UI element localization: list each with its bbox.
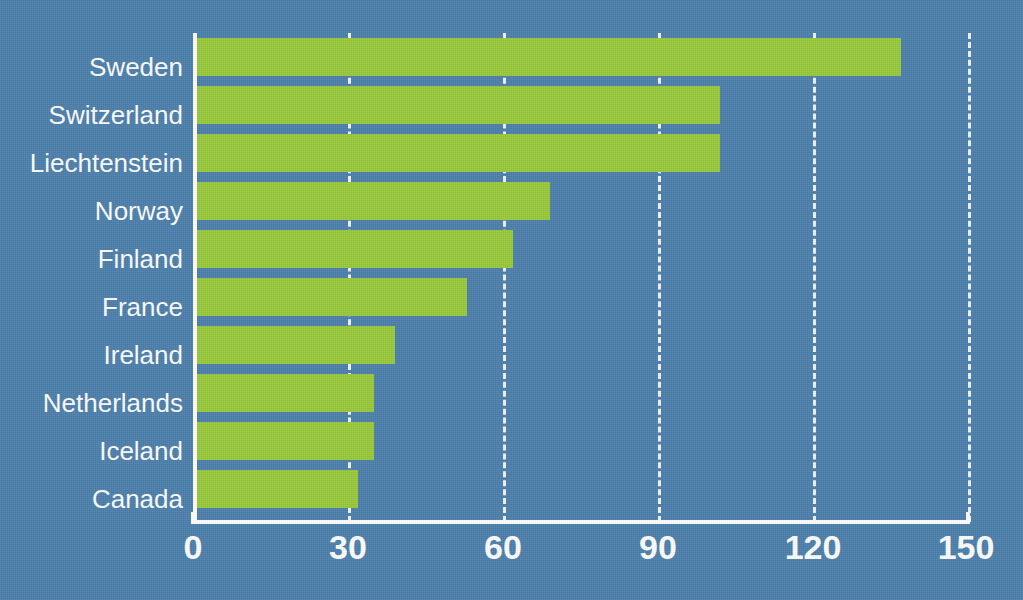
bar-sweden[interactable]	[193, 38, 901, 76]
category-label-sweden: Sweden	[0, 48, 183, 86]
category-label-netherlands: Netherlands	[0, 384, 183, 422]
category-label-text: Netherlands	[43, 388, 183, 418]
x-tick-label-60: 60	[484, 528, 522, 567]
horizontal-bar-chart: Sweden Switzerland Liechtenstein Norway …	[0, 0, 1023, 600]
category-label-iceland: Iceland	[0, 432, 183, 470]
x-axis-line	[191, 520, 970, 524]
category-label-canada: Canada	[0, 480, 183, 518]
category-label-text: Finland	[98, 244, 183, 274]
category-label-switzerland: Switzerland	[0, 96, 183, 134]
bar-row[interactable]	[193, 230, 968, 268]
bar-norway[interactable]	[193, 182, 550, 220]
bar-netherlands[interactable]	[193, 374, 374, 412]
bar-canada[interactable]	[193, 470, 358, 508]
x-tick-label-150: 150	[938, 528, 995, 567]
bar-row[interactable]	[193, 422, 968, 460]
bar-liechtenstein[interactable]	[193, 134, 720, 172]
gridline-0	[193, 33, 197, 522]
bar-france[interactable]	[193, 278, 467, 316]
category-label-text: Ireland	[104, 340, 184, 370]
bar-iceland[interactable]	[193, 422, 374, 460]
category-label-text: Canada	[92, 484, 183, 514]
bar-row[interactable]	[193, 86, 968, 124]
category-label-text: Iceland	[99, 436, 183, 466]
x-tick-label-30: 30	[329, 528, 367, 567]
x-axis-cap-right	[966, 512, 970, 524]
category-label-liechtenstein: Liechtenstein	[0, 144, 183, 182]
x-tick-label-120: 120	[785, 528, 842, 567]
category-label-text: France	[102, 292, 183, 322]
category-label-text: Switzerland	[49, 100, 183, 130]
bar-finland[interactable]	[193, 230, 513, 268]
category-label-text: Sweden	[89, 52, 183, 82]
x-axis-cap-left	[191, 512, 195, 524]
bar-ireland[interactable]	[193, 326, 395, 364]
bar-row[interactable]	[193, 470, 968, 508]
chart-page: Sweden Switzerland Liechtenstein Norway …	[0, 0, 1023, 600]
gridline-150	[968, 33, 971, 522]
bar-row[interactable]	[193, 134, 968, 172]
bar-row[interactable]	[193, 38, 968, 76]
x-tick-label-90: 90	[639, 528, 677, 567]
bar-row[interactable]	[193, 278, 968, 316]
bar-row[interactable]	[193, 374, 968, 412]
x-tick-label-0: 0	[184, 528, 203, 567]
category-label-france: France	[0, 288, 183, 326]
bar-row[interactable]	[193, 326, 968, 364]
category-label-text: Norway	[95, 196, 183, 226]
category-label-finland: Finland	[0, 240, 183, 278]
category-label-ireland: Ireland	[0, 336, 183, 374]
bar-switzerland[interactable]	[193, 86, 720, 124]
bar-row[interactable]	[193, 182, 968, 220]
category-label-norway: Norway	[0, 192, 183, 230]
category-label-text: Liechtenstein	[30, 148, 183, 178]
